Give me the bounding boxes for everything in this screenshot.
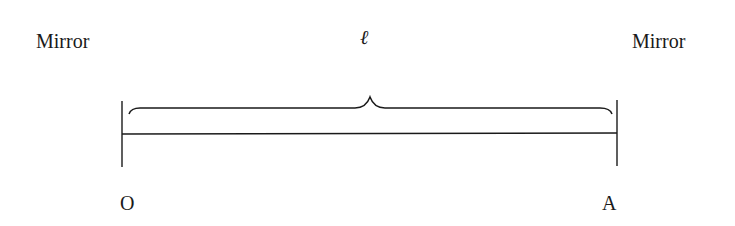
point-o-label: O xyxy=(120,193,134,213)
axis-line xyxy=(122,133,617,134)
length-brace xyxy=(129,97,612,114)
cavity-drawing xyxy=(0,0,735,226)
optical-cavity-diagram: Mirror Mirror ℓ O A xyxy=(0,0,735,226)
point-a-label: A xyxy=(602,193,616,213)
